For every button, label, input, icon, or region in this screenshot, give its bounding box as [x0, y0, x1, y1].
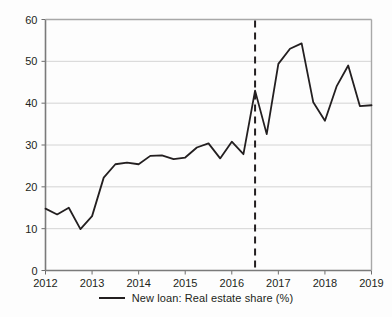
x-tick-label: 2019 — [359, 277, 383, 289]
y-tick-label: 50 — [25, 55, 37, 67]
x-tick-label: 2017 — [266, 277, 290, 289]
x-tick-label: 2016 — [220, 277, 244, 289]
y-tick-label: 20 — [25, 181, 37, 193]
data-series — [46, 43, 372, 229]
y-axis-tick-labels: 0102030405060 — [25, 14, 37, 277]
series-line — [46, 43, 372, 229]
y-tick-label: 60 — [25, 14, 37, 26]
y-tick-label: 0 — [31, 265, 37, 277]
gridlines — [46, 20, 372, 229]
x-tick-label: 2013 — [80, 277, 104, 289]
line-chart-plot: 0102030405060 20122013201420152016201720… — [0, 0, 392, 317]
x-tick-label: 2015 — [173, 277, 197, 289]
x-tick-label: 2012 — [33, 277, 57, 289]
y-tick-label: 10 — [25, 223, 37, 235]
y-tick-label: 40 — [25, 97, 37, 109]
x-tick-label: 2018 — [313, 277, 337, 289]
x-tick-label: 2014 — [126, 277, 150, 289]
chart-figure: 0102030405060 20122013201420152016201720… — [0, 0, 392, 317]
legend-label: New loan: Real estate share (%) — [132, 292, 293, 304]
chart-legend: New loan: Real estate share (%) — [0, 292, 392, 304]
legend-line-swatch — [99, 297, 125, 299]
y-tick-label: 30 — [25, 139, 37, 151]
x-axis-tick-labels: 20122013201420152016201720182019 — [33, 277, 383, 289]
